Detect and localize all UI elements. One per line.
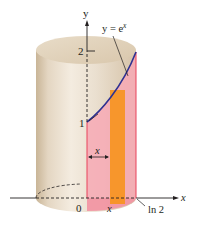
cylinder-top [36, 36, 136, 64]
origin-label: 0 [76, 202, 82, 214]
radius-label: x [94, 145, 100, 156]
ln2-label: ln 2 [148, 204, 164, 215]
ln2-leader [137, 199, 145, 206]
y-tick-1-label: 1 [79, 117, 85, 129]
y-tick-2-label: 2 [78, 45, 84, 57]
solid-of-revolution-diagram: y y = ex 2 1 x 0 x ln 2 x [0, 0, 198, 226]
y-axis-arrow-icon [85, 20, 89, 26]
x-axis-label: x [180, 192, 186, 203]
x-var-label: x [106, 203, 112, 214]
orange-shell-strip [110, 90, 125, 204]
y-axis-label: y [83, 7, 89, 19]
x-axis-arrow-icon [173, 196, 179, 200]
curve-label: y = ex [102, 21, 127, 34]
